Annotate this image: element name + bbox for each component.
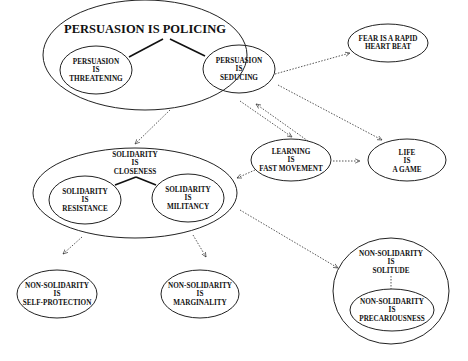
line: A GAME bbox=[393, 165, 422, 173]
label-nonsol-marginality: NON-SOLIDARITY IS MARGINALITY bbox=[168, 282, 232, 307]
edge-learning-policing bbox=[256, 104, 308, 141]
line: IS bbox=[62, 196, 108, 204]
line: IS bbox=[112, 159, 158, 167]
label-fear-heartbeat: FEAR IS A RAPID HEART BEAT bbox=[359, 35, 418, 52]
line: SOLIDARITY bbox=[165, 186, 211, 194]
label-solidarity-resistance: SOLIDARITY IS RESISTANCE bbox=[62, 188, 108, 213]
line: IS bbox=[259, 156, 322, 164]
label-life-game: LIFE IS A GAME bbox=[393, 149, 422, 174]
line: IS bbox=[359, 306, 425, 314]
line: NON-SOLIDARITY bbox=[359, 250, 423, 258]
edge-policing-learning bbox=[240, 101, 292, 137]
line: SOLITUDE bbox=[359, 266, 423, 274]
edge-policing-life bbox=[278, 85, 382, 140]
line: THREATENING bbox=[69, 74, 122, 82]
edge-policing-seducing bbox=[170, 39, 205, 56]
line: PERSUASION bbox=[216, 57, 262, 65]
line: SOLIDARITY bbox=[112, 151, 158, 159]
line: PERSUASION bbox=[69, 58, 122, 66]
label-learning-fast-movement: LEARNING IS FAST MOVEMENT bbox=[259, 148, 322, 173]
line: SELF-PROTECTION bbox=[23, 298, 92, 306]
edge-closeness-marginality bbox=[193, 235, 206, 257]
line: HEART BEAT bbox=[359, 43, 418, 51]
line: LIFE bbox=[393, 149, 422, 157]
line: MILITANCY bbox=[165, 202, 211, 210]
label-solidarity-closeness: SOLIDARITY IS CLOSENESS bbox=[112, 151, 158, 176]
label-persuasion-threatening: PERSUASION IS THREATENING bbox=[69, 58, 122, 83]
concept-diagram: PERSUASION IS POLICING PERSUASION IS THR… bbox=[0, 0, 468, 361]
edge-closeness-solitude bbox=[240, 210, 338, 268]
line: IS bbox=[23, 290, 92, 298]
edge-closeness-militancy bbox=[136, 177, 156, 185]
label-nonsol-selfprotection: NON-SOLIDARITY IS SELF-PROTECTION bbox=[23, 282, 92, 307]
line: IS bbox=[359, 258, 423, 266]
edge-closeness-resistance bbox=[115, 177, 136, 185]
line: MARGINALITY bbox=[168, 298, 232, 306]
label-nonsol-solitude: NON-SOLIDARITY IS SOLITUDE bbox=[359, 250, 423, 275]
edge-policing-threatening bbox=[129, 39, 163, 57]
line: RESISTANCE bbox=[62, 204, 108, 212]
line: NON-SOLIDARITY bbox=[23, 282, 92, 290]
line: IS bbox=[216, 65, 262, 73]
node-persuasion-policing bbox=[43, 0, 247, 110]
label-persuasion-seducing: PERSUASION IS SEDUCING bbox=[216, 57, 262, 82]
line: LEARNING bbox=[259, 148, 322, 156]
edge-closeness-selfprotection bbox=[63, 237, 82, 254]
line: CLOSENESS bbox=[112, 167, 158, 175]
line: FAST MOVEMENT bbox=[259, 164, 322, 172]
label-persuasion-policing: PERSUASION IS POLICING bbox=[64, 22, 226, 36]
line: NON-SOLIDARITY bbox=[359, 298, 425, 306]
line: IS bbox=[393, 157, 422, 165]
line: PRECARIOUSNESS bbox=[359, 314, 425, 322]
line: IS bbox=[165, 194, 211, 202]
edge-policing-closeness bbox=[135, 110, 170, 144]
line: SOLIDARITY bbox=[62, 188, 108, 196]
line: IS bbox=[69, 66, 122, 74]
edge-learning-closeness bbox=[237, 170, 255, 178]
line: IS bbox=[168, 290, 232, 298]
line: SEDUCING bbox=[216, 73, 262, 81]
label-nonsol-precariousness: NON-SOLIDARITY IS PRECARIOUSNESS bbox=[359, 298, 425, 323]
edge-seducing-fear bbox=[275, 53, 350, 74]
line: FEAR IS A RAPID bbox=[359, 35, 418, 43]
label-solidarity-militancy: SOLIDARITY IS MILITANCY bbox=[165, 186, 211, 211]
line: NON-SOLIDARITY bbox=[168, 282, 232, 290]
